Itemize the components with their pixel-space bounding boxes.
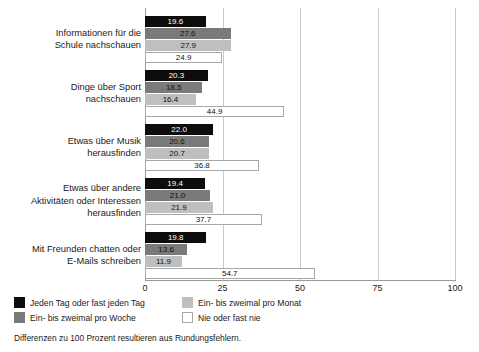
bar-row: 20.7 <box>145 148 455 159</box>
bar-value-label: 16.4 <box>145 94 196 105</box>
bar-value-label: 22.0 <box>145 124 213 135</box>
x-tick-label-100: 100 <box>447 283 462 293</box>
bar-value-label: 19.6 <box>145 16 206 27</box>
bar-value-label: 19.4 <box>145 178 205 189</box>
category-label-line: Informationen für die <box>0 27 141 40</box>
category-label: Mit Freunden chatten oderE-Mails schreib… <box>0 243 141 268</box>
bar-row: 27.6 <box>145 28 455 39</box>
legend-label: Nie oder fast nie <box>198 313 261 323</box>
bar-value-label: 19.8 <box>145 232 206 243</box>
chart-footnote: Differenzen zu 100 Prozent resultieren a… <box>14 333 241 343</box>
bar-value-label: 36.8 <box>145 160 259 171</box>
legend-swatch-icon <box>14 297 25 308</box>
x-axis-line <box>145 280 456 281</box>
bar-value-label: 44.9 <box>145 106 284 117</box>
bar-row: 19.6 <box>145 16 455 27</box>
category-label: Dinge über Sportnachschauen <box>0 81 141 106</box>
legend-swatch-icon <box>14 312 25 323</box>
bar-row: 20.3 <box>145 70 455 81</box>
bar-value-label: 11.9 <box>145 256 182 267</box>
category-label-line: Mit Freunden chatten oder <box>0 243 141 256</box>
bar-row: 20.6 <box>145 136 455 147</box>
legend-swatch-icon <box>182 297 193 308</box>
legend-row: Ein- bis zweimal pro WocheNie oder fast … <box>14 312 464 327</box>
category-label-line: herausfinden <box>0 147 141 160</box>
bar-value-label: 37.7 <box>145 214 262 225</box>
bar-row: 44.9 <box>145 106 455 117</box>
bar-row: 24.9 <box>145 52 455 63</box>
bar-row: 21.9 <box>145 202 455 213</box>
plot-wrapper: Informationen für dieSchule nachschauenD… <box>0 8 479 280</box>
bar-group: 22.020.620.736.8 <box>145 124 455 172</box>
plot-area: 19.627.627.924.920.318.516.444.922.020.6… <box>145 8 455 280</box>
bar-value-label: 21.9 <box>145 202 213 213</box>
bar-value-label: 24.9 <box>145 52 222 63</box>
category-label-line: Schule nachschauen <box>0 39 141 52</box>
bar-value-label: 20.6 <box>145 136 209 147</box>
bar-group: 19.421.021.937.7 <box>145 178 455 226</box>
category-label-line: herausfinden <box>0 207 141 220</box>
bar-row: 37.7 <box>145 214 455 225</box>
bar-value-label: 13.6 <box>145 244 187 255</box>
category-label-line: Dinge über Sport <box>0 81 141 94</box>
legend-row: Jeden Tag oder fast jeden TagEin- bis zw… <box>14 297 464 312</box>
legend-item[interactable]: Ein- bis zweimal pro Woche <box>14 312 136 323</box>
bar-group: 19.627.627.924.9 <box>145 16 455 64</box>
bar-row: 36.8 <box>145 160 455 171</box>
legend-item[interactable]: Ein- bis zweimal pro Monat <box>182 297 301 308</box>
x-tick-label-25: 25 <box>217 283 227 293</box>
bar-group: 19.813.611.954.7 <box>145 232 455 280</box>
bar-row: 16.4 <box>145 94 455 105</box>
category-label-line: Aktivitäten oder Interessen <box>0 195 141 208</box>
x-tick-label-50: 50 <box>295 283 305 293</box>
category-label: Informationen für dieSchule nachschauen <box>0 27 141 52</box>
bar-row: 22.0 <box>145 124 455 135</box>
bar-row: 19.4 <box>145 178 455 189</box>
legend-item[interactable]: Jeden Tag oder fast jeden Tag <box>14 297 145 308</box>
bar-value-label: 20.7 <box>145 148 209 159</box>
bar-row: 11.9 <box>145 256 455 267</box>
bar-value-label: 27.9 <box>145 40 231 51</box>
bar-group: 20.318.516.444.9 <box>145 70 455 118</box>
x-tick-label-0: 0 <box>142 283 147 293</box>
bar-row: 13.6 <box>145 244 455 255</box>
bar-row: 18.5 <box>145 82 455 93</box>
gridline-100 <box>455 8 456 280</box>
legend-label: Ein- bis zweimal pro Monat <box>198 298 301 308</box>
bar-value-label: 18.5 <box>145 82 202 93</box>
bar-value-label: 20.3 <box>145 70 208 81</box>
bar-row: 27.9 <box>145 40 455 51</box>
legend-label: Jeden Tag oder fast jeden Tag <box>30 298 145 308</box>
bar-row: 19.8 <box>145 232 455 243</box>
bar-value-label: 21.0 <box>145 190 210 201</box>
bar-chart: Informationen für dieSchule nachschauenD… <box>0 0 479 352</box>
category-labels: Informationen für dieSchule nachschauenD… <box>0 8 141 280</box>
bar-value-label: 27.6 <box>145 28 231 39</box>
legend-label: Ein- bis zweimal pro Woche <box>30 313 136 323</box>
category-label-line: E-Mails schreiben <box>0 255 141 268</box>
category-label: Etwas über Musikherausfinden <box>0 135 141 160</box>
category-label: Etwas über andereAktivitäten oder Intere… <box>0 182 141 220</box>
x-tick-label-75: 75 <box>372 283 382 293</box>
bar-value-label: 54.7 <box>145 268 315 279</box>
legend-swatch-icon <box>182 312 193 323</box>
category-label-line: nachschauen <box>0 93 141 106</box>
bar-row: 54.7 <box>145 268 455 279</box>
bar-row: 21.0 <box>145 190 455 201</box>
category-label-line: Etwas über andere <box>0 182 141 195</box>
category-label-line: Etwas über Musik <box>0 135 141 148</box>
chart-legend: Jeden Tag oder fast jeden TagEin- bis zw… <box>14 297 464 327</box>
legend-item[interactable]: Nie oder fast nie <box>182 312 261 323</box>
